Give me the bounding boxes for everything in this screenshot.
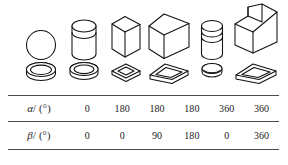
alpha-value-4: 180 xyxy=(174,103,209,114)
solid-shape-cell-6 xyxy=(229,0,283,62)
beta-value-6: 360 xyxy=(244,130,279,141)
shape-column-2 xyxy=(62,0,106,94)
banded-cylinder-icon xyxy=(199,18,225,62)
flat-round-disk-icon xyxy=(68,62,100,82)
shape-column-4 xyxy=(143,0,195,94)
shape-column-6 xyxy=(229,0,283,94)
alpha-value-6: 360 xyxy=(244,103,279,114)
plate-shape-cell-6 xyxy=(229,60,283,94)
row-label-beta: β/ (°) xyxy=(8,129,70,141)
alpha-separator: / xyxy=(33,103,36,114)
table-rule-bottom xyxy=(8,149,279,150)
shape-column-1 xyxy=(18,0,64,94)
beta-value-1: 0 xyxy=(70,130,105,141)
alpha-value-3: 180 xyxy=(140,103,175,114)
solid-shape-cell-1 xyxy=(18,0,64,62)
alpha-value-2: 180 xyxy=(105,103,140,114)
beta-separator: / xyxy=(33,130,36,141)
beta-value-4: 180 xyxy=(174,130,209,141)
beta-value-5: 0 xyxy=(209,130,244,141)
rectangular-prism-wide-icon xyxy=(146,10,192,62)
row-label-alpha: α/ (°) xyxy=(8,102,70,114)
shape-column-5 xyxy=(191,0,233,94)
beta-value-2: 0 xyxy=(105,130,140,141)
solid-shape-cell-4 xyxy=(143,0,195,62)
flat-square-plate-icon xyxy=(109,62,143,84)
flat-rectangular-plate-icon xyxy=(147,62,191,86)
solid-shape-cell-2 xyxy=(62,0,106,62)
table-row-alpha: α/ (°) 0 180 180 180 360 360 xyxy=(8,95,279,121)
alpha-value-5: 360 xyxy=(209,103,244,114)
figure-root: α/ (°) 0 180 180 180 360 360 β/ (°) 0 0 … xyxy=(0,0,288,165)
plate-shape-cell-5 xyxy=(191,60,233,94)
circle-disk-icon xyxy=(24,28,58,62)
plate-shape-cell-2 xyxy=(62,60,106,94)
table-row-beta: β/ (°) 0 0 90 180 0 360 xyxy=(8,122,279,148)
alpha-value-1: 0 xyxy=(70,103,105,114)
cylinder-icon xyxy=(70,18,98,62)
plate-shape-cell-4 xyxy=(143,60,195,94)
shape-gallery xyxy=(0,0,288,94)
flat-rectangular-plate-icon xyxy=(234,62,278,86)
plate-shape-cell-1 xyxy=(18,60,64,94)
rectangular-prism-tall-icon xyxy=(108,12,144,62)
beta-value-3: 90 xyxy=(140,130,175,141)
flat-small-disk-icon xyxy=(200,62,224,79)
alpha-unit: (°) xyxy=(39,103,51,114)
stepped-l-block-icon xyxy=(232,2,280,62)
parameter-table: α/ (°) 0 180 180 180 360 360 β/ (°) 0 0 … xyxy=(8,94,279,152)
solid-shape-cell-5 xyxy=(191,0,233,62)
flat-round-disk-icon xyxy=(24,62,58,82)
beta-unit: (°) xyxy=(39,130,51,141)
